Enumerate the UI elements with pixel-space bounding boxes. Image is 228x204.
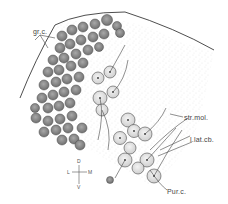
compass-medial: M: [88, 170, 92, 175]
cerebellum-diagram: gr.c. str.mol. l.lat.cb. Pur.c. D V L M: [0, 0, 228, 204]
label-stratum-moleculare: str.mol.: [184, 114, 208, 121]
compass-lateral: L: [67, 170, 70, 175]
label-purkinje-cells: Pur.c.: [167, 188, 186, 195]
compass-dorsal: D: [77, 159, 81, 164]
label-lateral-cerebellar-lobe: l.lat.cb.: [190, 136, 214, 143]
compass-rose: [72, 165, 87, 184]
label-granule-cells: gr.c.: [33, 28, 47, 35]
compass-ventral: V: [77, 185, 80, 190]
